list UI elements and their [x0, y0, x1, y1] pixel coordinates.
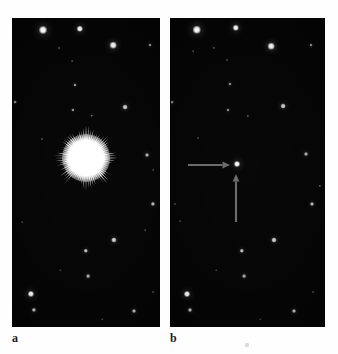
star-point — [188, 308, 192, 312]
star-point — [304, 152, 308, 156]
star-point — [192, 50, 194, 52]
star-point — [71, 108, 74, 111]
star-point — [268, 43, 275, 50]
star-point — [28, 291, 34, 297]
star-point — [144, 229, 146, 231]
star-point — [151, 202, 155, 206]
panel-a-caption: a — [12, 332, 18, 344]
star-point — [179, 220, 181, 222]
star-point — [319, 185, 321, 187]
star-point — [123, 105, 128, 110]
star-point — [145, 153, 149, 157]
paper-speck — [245, 343, 248, 346]
arrow-head — [233, 174, 240, 182]
star-point — [59, 269, 61, 271]
star-point — [84, 249, 88, 253]
star-point — [91, 115, 93, 117]
star-point — [21, 221, 23, 223]
panel-b-image — [170, 18, 325, 327]
star-point — [184, 291, 190, 297]
saturated-star-burst — [46, 118, 126, 198]
star-core — [69, 141, 103, 175]
star-point — [110, 42, 117, 49]
star-point — [174, 203, 176, 205]
star-point — [132, 309, 136, 313]
star-point — [101, 318, 103, 320]
star-point — [111, 237, 116, 242]
star-point — [226, 59, 228, 61]
star-point — [233, 25, 239, 31]
star-point — [240, 249, 244, 253]
star-point — [32, 308, 36, 312]
star-point — [247, 115, 249, 117]
figure-container: a b — [0, 0, 338, 354]
star-point — [73, 83, 76, 86]
star-point — [41, 138, 43, 140]
star-point — [310, 44, 313, 47]
star-point — [58, 47, 60, 49]
star-point — [149, 44, 152, 47]
vertical-pointer-arrow — [229, 167, 243, 229]
star-point — [228, 82, 231, 85]
star-point — [310, 202, 314, 206]
star-point — [215, 269, 217, 271]
star-point — [39, 26, 47, 34]
star-point — [171, 101, 174, 104]
star-point — [71, 60, 73, 62]
diffraction-spikes-icon — [46, 118, 126, 198]
star-point — [242, 274, 246, 278]
star-point — [272, 238, 277, 243]
star-point — [312, 291, 314, 293]
star-point — [193, 26, 201, 34]
star-point — [86, 274, 90, 278]
star-point — [213, 47, 215, 49]
star-halo — [62, 134, 110, 182]
star-point — [227, 109, 230, 112]
star-point — [152, 291, 154, 293]
star-point — [281, 104, 286, 109]
star-point — [77, 26, 83, 32]
panel-b-caption: b — [170, 332, 177, 344]
star-point — [259, 318, 261, 320]
star-point — [197, 137, 199, 139]
star-point — [292, 309, 296, 313]
panel-a-image — [12, 18, 160, 327]
star-point — [152, 169, 154, 171]
star-point — [14, 101, 17, 104]
